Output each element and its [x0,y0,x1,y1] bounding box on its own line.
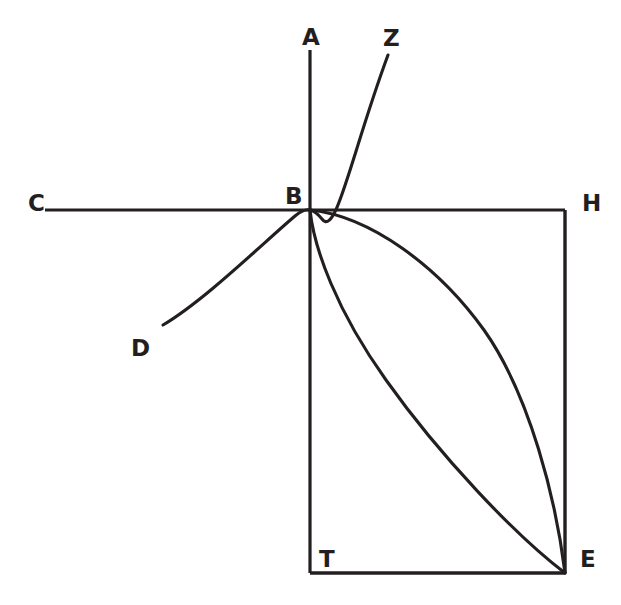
point-label-c: C [28,192,45,215]
diagram-svg [0,0,621,605]
point-label-d: D [131,337,150,360]
point-label-h: H [582,192,601,215]
point-label-z: Z [383,27,400,50]
point-label-e: E [580,548,596,571]
curve-b-e-outer [310,210,565,573]
point-label-b: B [285,185,303,208]
curve-d-b-z [163,55,388,325]
point-label-a: A [302,26,320,49]
curve-b-e-inner [310,210,565,573]
figure-canvas: A Z C B H D T E [0,0,621,605]
point-label-t: T [319,548,335,571]
